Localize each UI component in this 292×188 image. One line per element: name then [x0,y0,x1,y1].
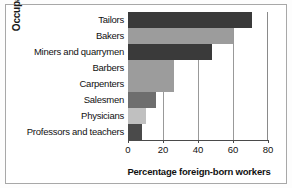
plot-area [128,12,268,140]
x-axis-tick-label: 40 [186,144,210,155]
bar [128,44,212,60]
y-axis-tick-label: Carpenters [18,76,124,92]
y-axis-tick-labels: TailorsBakersMiners and quarrymenBarbers… [18,12,124,140]
y-axis-tick-label: Bakers [18,28,124,44]
y-axis-tick-label: Physicians [18,108,124,124]
x-axis-tick [268,140,269,143]
x-axis-tick [198,140,199,143]
bar [128,124,142,140]
bar-series [128,12,267,140]
x-axis-tick-label: 60 [221,144,245,155]
bar [128,108,146,124]
x-axis-title: Percentage foreign-born workers [118,166,280,177]
y-axis-tick-label: Professors and teachers [18,124,124,140]
y-axis-tick-label: Barbers [18,60,124,76]
chart-figure: Occupations TailorsBakersMiners and quar… [0,0,292,188]
x-axis-tick-label: 0 [116,144,140,155]
bar [128,60,174,76]
bar [128,12,252,28]
bar [128,28,233,44]
y-axis-tick-label: Tailors [18,12,124,28]
x-axis-tick-label: 20 [151,144,175,155]
y-axis-tick-label: Miners and quarrymen [18,44,124,60]
bar [128,76,174,92]
x-axis-tick [163,140,164,143]
x-axis-tick [128,140,129,143]
x-axis-tick [233,140,234,143]
x-axis-tick-label: 80 [256,144,280,155]
y-axis-tick-label: Salesmen [18,92,124,108]
bar [128,92,156,108]
